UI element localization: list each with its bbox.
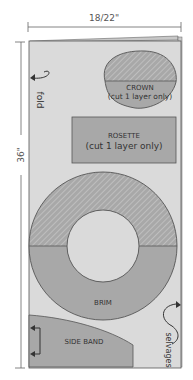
- rosette-sublabel: (cut 1 layer only): [85, 141, 162, 151]
- fold-label: fold: [35, 92, 45, 109]
- rosette-piece: [72, 117, 176, 163]
- brim-piece: [29, 172, 177, 320]
- rosette-label: ROSETTE: [108, 132, 140, 140]
- cutting-layout-diagram: 18/22" 36" fold CROWN (cut 1 layer only)…: [0, 0, 193, 380]
- brim-label: BRIM: [94, 299, 112, 307]
- selvages-label: selvages: [164, 332, 173, 367]
- width-label: 18/22": [89, 13, 119, 23]
- height-dimension-line: [15, 42, 25, 368]
- crown-label: CROWN: [126, 84, 153, 92]
- width-dimension-line: [28, 22, 181, 32]
- side-band-label: SIDE BAND: [65, 338, 104, 346]
- crown-sublabel: (cut 1 layer only): [108, 92, 172, 101]
- height-label: 36": [16, 147, 26, 163]
